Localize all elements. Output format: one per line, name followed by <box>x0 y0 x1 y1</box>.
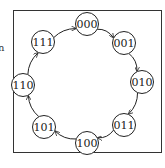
node-label: 001 <box>114 37 135 50</box>
state-node-011: 011 <box>113 114 136 137</box>
edge-arrow-110-to-111 <box>28 53 38 75</box>
state-diagram: 000001010011100101110111 <box>0 0 165 168</box>
edge-arrow-101-to-110 <box>28 96 38 117</box>
state-node-111: 111 <box>32 31 55 54</box>
edge-arrow-010-to-011 <box>129 93 138 114</box>
node-label: 111 <box>33 36 54 49</box>
state-node-100: 100 <box>76 132 99 155</box>
nodes-group: 000001010011100101110111 <box>12 13 154 155</box>
node-label: 110 <box>13 79 34 92</box>
edge-arrow-011-to-100 <box>98 130 114 138</box>
node-label: 010 <box>132 76 153 89</box>
node-label: 011 <box>114 119 135 132</box>
edge-arrow-111-to-000 <box>54 29 76 38</box>
state-node-010: 010 <box>131 71 154 94</box>
node-label: 100 <box>77 137 98 150</box>
state-node-110: 110 <box>12 74 35 97</box>
state-node-000: 000 <box>76 13 99 36</box>
edge-arrow-100-to-101 <box>55 131 76 139</box>
state-node-001: 001 <box>113 32 136 55</box>
edge-arrow-001-to-010 <box>129 53 137 71</box>
node-label: 000 <box>77 18 98 31</box>
edge-arrow-000-to-001 <box>97 29 113 37</box>
state-node-101: 101 <box>33 116 56 139</box>
node-label: 101 <box>34 121 55 134</box>
